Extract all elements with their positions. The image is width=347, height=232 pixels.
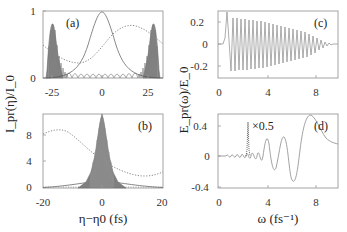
panel-d-scaled-dotted (246, 122, 250, 156)
panel-d-ytick-0.4: 0.4 (193, 120, 207, 132)
panel-a-phase (43, 25, 163, 63)
panel-a-envelope (43, 12, 163, 78)
panel-a-xtick-0: -25 (45, 86, 60, 98)
panel-a-frame (43, 11, 163, 78)
panel-d-xtick-4: 4 (265, 196, 271, 208)
panel-b-ytick-4: 4 (26, 155, 32, 167)
y-axis-label-right: E_pr(ω)/E_0 (176, 66, 191, 133)
panel-a-ytick-0: 0 (30, 72, 36, 84)
panel-a-xtick-1: 0 (99, 86, 105, 98)
panel-c-xtick-4: 4 (265, 86, 271, 98)
panel-a-xtick-2: 25 (143, 86, 155, 98)
panel-a: (a) 1 0 -25 0 25 (30, 5, 163, 98)
panel-b-xtick-0: -20 (36, 196, 51, 208)
panel-d-ytick-0: 0 (204, 150, 210, 162)
panel-b-ytick-0: 0 (26, 181, 32, 193)
panel-b-xtick-1: 0 (99, 196, 105, 208)
x-axis-label-right: ω (fs⁻¹) (258, 211, 299, 226)
panel-a-intensity-fill (46, 24, 160, 78)
panel-d-xtick-8: 8 (313, 196, 319, 208)
panel-d-xtick-0: 0 (216, 196, 222, 208)
panel-d: ×0.5 (d) 0.4 0 -0.4 0 4 8 ω (fs⁻¹) (191, 114, 338, 226)
panel-c-ytick-0: 0 (202, 38, 208, 50)
panel-d-label: (d) (314, 119, 328, 133)
panel-c-ytick-neg0.2: -0.2 (190, 60, 207, 72)
figure-canvas: (a) 1 0 -25 0 25 (b) 8 4 0 -20 0 20 η−η0… (0, 0, 347, 232)
panel-c-ytick-0.2: 0.2 (190, 16, 204, 28)
y-axis-label-left: I_pr(η)/I_0 (2, 75, 17, 133)
panel-b-label: (b) (138, 119, 152, 133)
panel-c-xtick-0: 0 (216, 86, 222, 98)
panel-b: (b) 8 4 0 -20 0 20 η−η0 (fs) (26, 114, 168, 226)
panel-d-annotation: ×0.5 (252, 119, 274, 133)
panel-b-xtick-2: 20 (157, 196, 169, 208)
panel-a-label: (a) (66, 16, 79, 30)
panel-a-ytick-1: 1 (30, 5, 36, 17)
panel-c: (c) 0.2 0 -0.2 0 4 8 (190, 11, 338, 98)
panel-b-ytick-8: 8 (26, 129, 32, 141)
x-axis-label-left: η−η0 (fs) (79, 211, 128, 226)
panel-c-xtick-8: 8 (313, 86, 319, 98)
panel-c-label: (c) (314, 16, 327, 30)
panel-d-ytick-neg0.4: -0.4 (191, 181, 209, 193)
